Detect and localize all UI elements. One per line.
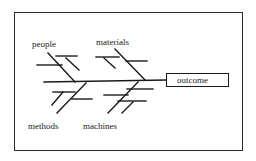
bone-machines bbox=[108, 82, 138, 113]
outcome-box: outcome bbox=[166, 73, 229, 87]
bone-materials bbox=[115, 49, 145, 80]
bone-people bbox=[48, 53, 75, 82]
label-methods: methods bbox=[28, 122, 59, 131]
spine bbox=[44, 80, 166, 82]
label-machines: machines bbox=[83, 122, 117, 131]
label-people: people bbox=[32, 40, 56, 49]
label-materials: materials bbox=[96, 38, 129, 47]
bone-methods bbox=[57, 83, 86, 113]
